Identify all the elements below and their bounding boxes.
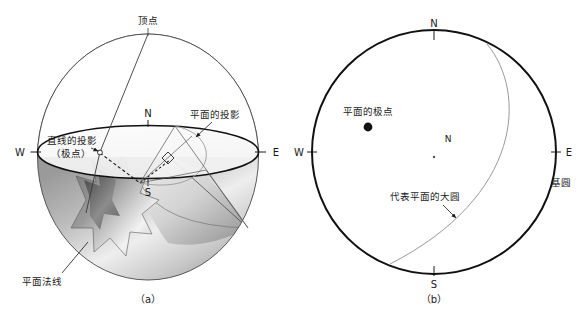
label-line-projection-pole: （极点） — [51, 148, 91, 159]
label-plane-normal: 平面法线 — [22, 276, 62, 287]
caption-panel-a: （a） — [135, 294, 161, 305]
compass-n-a: N — [144, 108, 151, 119]
label-line-projection: 直线的投影 — [47, 135, 97, 146]
label-plane-pole: 平面的极点 — [343, 106, 393, 117]
compass-s-a: S — [145, 187, 151, 198]
compass-w-a: W — [15, 147, 25, 158]
label-plane-projection: 平面的投影 — [190, 109, 240, 120]
compass-w-b: W — [294, 147, 304, 158]
plane-pole-dot — [364, 123, 373, 132]
panel-a: W E N S 顶点 直线的投影 （极点） — [15, 15, 279, 305]
compass-e-b: E — [566, 147, 572, 158]
caption-panel-b: （b） — [421, 294, 447, 305]
stereographic-projection-figure: W E N S 顶点 直线的投影 （极点） — [0, 0, 585, 324]
line-pole-marker — [98, 150, 103, 155]
compass-s-b: S — [431, 279, 437, 290]
label-apex: 顶点 — [138, 15, 158, 26]
compass-e-a: E — [273, 147, 279, 158]
panel-b: N S W E N 平面的极点 代表平面的大圆 基圆 （b） — [294, 18, 572, 305]
label-primitive-circle: 基圆 — [551, 177, 571, 188]
figure-root: W E N S 顶点 直线的投影 （极点） — [0, 0, 585, 324]
label-great-circle: 代表平面的大圆 — [390, 191, 460, 202]
compass-n-b: N — [430, 18, 437, 29]
center-dot — [433, 156, 435, 158]
center-label-n: N — [445, 134, 452, 144]
